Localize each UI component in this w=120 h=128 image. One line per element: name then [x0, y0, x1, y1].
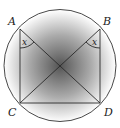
point-label-A: A: [7, 15, 16, 28]
point-label-B: B: [102, 15, 111, 28]
angle-label-A: x: [22, 37, 27, 47]
point-label-C: C: [8, 106, 17, 119]
point-label-D: D: [103, 106, 113, 119]
angle-label-B: x: [92, 37, 97, 47]
circle-rectangle-diagram: A B C D x x: [0, 0, 120, 128]
